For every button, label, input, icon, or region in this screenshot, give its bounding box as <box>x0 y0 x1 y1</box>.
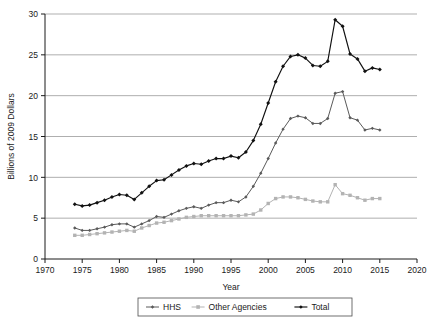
data-point <box>162 216 165 219</box>
y-tick-label-15: 15 <box>29 132 39 142</box>
data-point <box>200 214 203 217</box>
data-point <box>296 196 299 199</box>
data-point <box>117 192 121 196</box>
data-point <box>244 213 247 216</box>
y-axis-title: Billions of 2009 Dollars <box>6 93 16 179</box>
data-point <box>378 197 381 200</box>
x-tick-label-1975: 1975 <box>73 265 92 275</box>
data-point <box>200 207 203 210</box>
series-total <box>73 18 382 208</box>
data-point <box>185 216 188 219</box>
data-point <box>296 53 300 57</box>
data-point <box>103 231 106 234</box>
data-point <box>103 198 107 202</box>
data-point <box>88 203 92 207</box>
data-point <box>73 226 76 229</box>
data-point <box>348 116 351 119</box>
data-point <box>133 230 136 233</box>
series-line-0 <box>75 92 380 231</box>
data-point <box>333 92 336 95</box>
data-point <box>237 214 240 217</box>
chart-container: 0510152025301970197519801985199019952000… <box>0 0 427 323</box>
data-point <box>177 217 180 220</box>
x-tick-label-1985: 1985 <box>147 265 166 275</box>
data-point <box>274 197 277 200</box>
data-point <box>110 195 114 199</box>
y-tick-label-0: 0 <box>33 254 38 264</box>
data-point <box>378 68 382 72</box>
data-point <box>73 234 76 237</box>
data-point <box>267 202 270 205</box>
axis-titles: YearBillions of 2009 Dollars <box>6 93 240 292</box>
data-point <box>170 219 173 222</box>
data-point <box>81 229 84 232</box>
data-point <box>214 214 217 217</box>
data-point <box>110 223 113 226</box>
data-point <box>133 225 136 228</box>
data-point <box>371 197 374 200</box>
data-point <box>252 212 255 215</box>
data-point <box>95 201 99 205</box>
series-other-agencies <box>73 183 381 237</box>
x-tick-label-1990: 1990 <box>184 265 203 275</box>
x-tick-label-2020: 2020 <box>408 265 427 275</box>
x-tick-label-2000: 2000 <box>259 265 278 275</box>
data-point <box>81 234 84 237</box>
data-point <box>267 157 270 160</box>
data-point <box>341 90 344 93</box>
series-line-1 <box>75 185 380 236</box>
data-point <box>229 154 233 158</box>
data-point <box>311 199 314 202</box>
y-tick-label-5: 5 <box>33 213 38 223</box>
data-point <box>281 195 284 198</box>
data-point <box>356 196 359 199</box>
data-point <box>80 204 84 208</box>
y-tick-label-20: 20 <box>29 91 39 101</box>
data-point <box>110 230 113 233</box>
x-tick-label-2005: 2005 <box>296 265 315 275</box>
legend-label-0: HHS <box>163 302 181 312</box>
x-tick-label-1980: 1980 <box>110 265 129 275</box>
data-point <box>88 233 91 236</box>
data-series <box>73 18 382 237</box>
data-point <box>170 212 173 215</box>
data-point <box>125 222 128 225</box>
data-point <box>207 203 210 206</box>
data-point <box>378 128 381 131</box>
x-tick-label-1970: 1970 <box>36 265 55 275</box>
y-tick-label-10: 10 <box>29 173 39 183</box>
legend-marker-1 <box>196 305 200 309</box>
data-point <box>185 207 188 210</box>
legend-label-1: Other Agencies <box>209 302 267 312</box>
grid-lines <box>45 14 417 218</box>
data-point <box>304 198 307 201</box>
data-point <box>222 201 225 204</box>
data-point <box>207 159 211 163</box>
data-point <box>147 224 150 227</box>
data-point <box>155 221 158 224</box>
data-point <box>118 222 121 225</box>
data-point <box>333 183 336 186</box>
data-point <box>103 225 106 228</box>
data-point <box>177 209 180 212</box>
data-point <box>162 221 165 224</box>
data-point <box>73 202 77 206</box>
data-point <box>207 214 210 217</box>
data-point <box>259 208 262 211</box>
x-tick-label-1995: 1995 <box>222 265 241 275</box>
data-point <box>95 232 98 235</box>
data-point <box>371 127 374 130</box>
data-point <box>266 101 270 105</box>
data-point <box>192 161 196 165</box>
data-point <box>229 214 232 217</box>
data-point <box>370 66 374 70</box>
x-tick-label-2015: 2015 <box>370 265 389 275</box>
data-point <box>326 200 329 203</box>
series-hhs <box>73 90 381 232</box>
data-point <box>95 227 98 230</box>
data-point <box>214 157 218 161</box>
chart-legend: HHSOther AgenciesTotal <box>138 298 352 316</box>
data-point <box>88 229 91 232</box>
data-point <box>274 80 278 84</box>
data-point <box>118 230 121 233</box>
